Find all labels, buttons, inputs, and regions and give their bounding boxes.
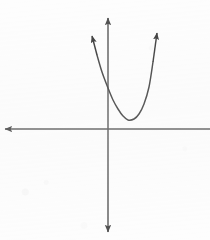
parabola-curve [92,33,157,120]
coordinate-plane-diagram [0,0,210,240]
figure-canvas [0,0,210,240]
parabola-path [97,55,153,120]
parabola-left-branch-arrow-icon [92,36,97,55]
parabola-right-branch-arrow-icon [153,33,157,62]
